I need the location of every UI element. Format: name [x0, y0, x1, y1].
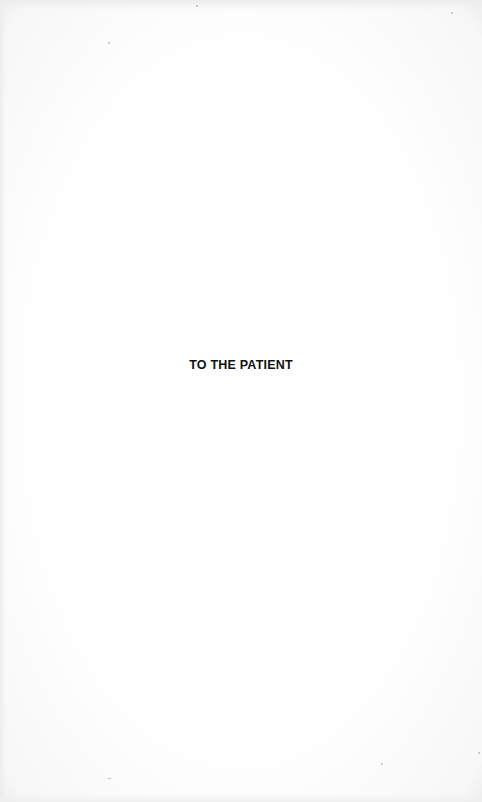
scan-speck	[451, 12, 453, 14]
scan-speck	[381, 763, 383, 765]
book-page: TO THE PATIENT	[0, 0, 482, 802]
dedication-text: TO THE PATIENT	[0, 358, 482, 372]
scan-edge-shadow-bottom	[0, 794, 482, 802]
scan-speck	[108, 42, 110, 44]
scan-edge-shadow-left	[0, 0, 6, 802]
scan-speck	[108, 778, 111, 779]
scan-speck	[478, 752, 480, 754]
scan-speck	[196, 5, 198, 7]
scan-edge-shadow-top	[0, 0, 482, 10]
